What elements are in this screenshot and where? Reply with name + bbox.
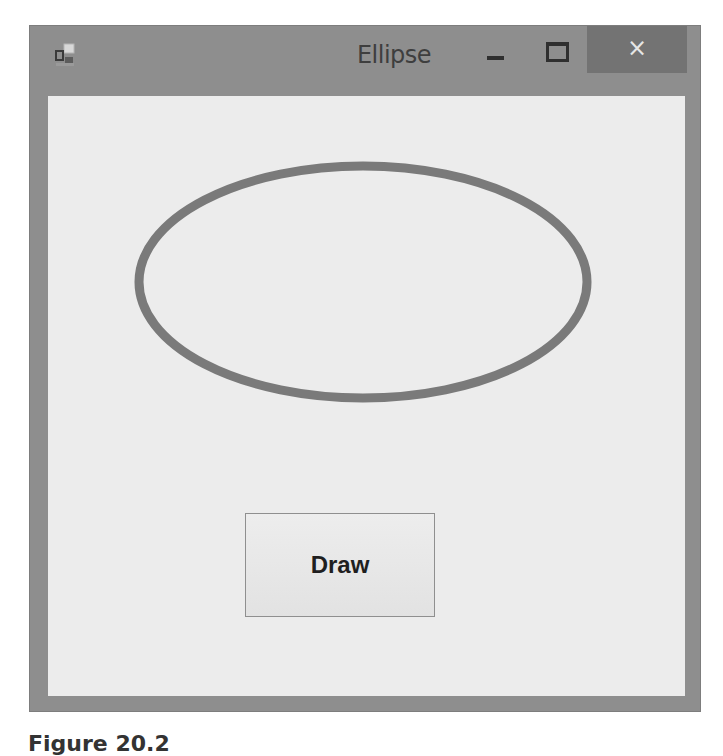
minimize-button[interactable] — [470, 26, 528, 73]
close-button[interactable]: × — [587, 26, 687, 73]
maximize-icon — [546, 42, 569, 62]
close-icon: × — [587, 33, 687, 63]
figure-caption: Figure 20.2 — [28, 731, 170, 756]
minimize-icon — [487, 56, 504, 60]
draw-button[interactable]: Draw — [245, 513, 435, 617]
title-bar[interactable]: Ellipse × — [30, 26, 700, 96]
maximize-button[interactable] — [530, 26, 586, 73]
app-window: Ellipse × Draw — [29, 25, 701, 712]
form-client-area: Draw — [48, 96, 685, 696]
drawn-ellipse — [139, 166, 587, 398]
